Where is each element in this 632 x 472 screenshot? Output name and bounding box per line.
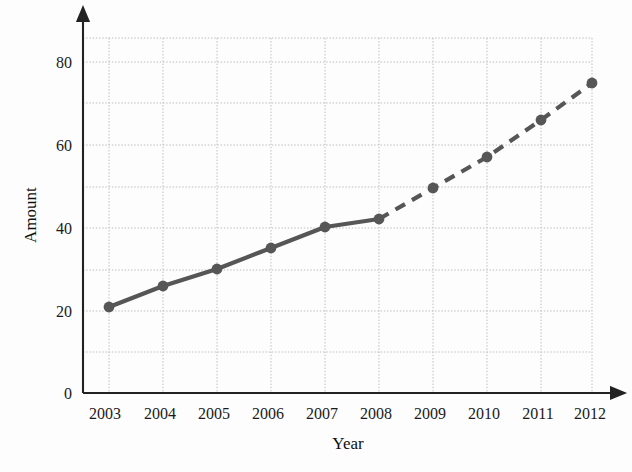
x-axis-title: Year bbox=[332, 434, 364, 453]
data-point-2010[interactable] bbox=[482, 152, 493, 163]
data-point-2005[interactable] bbox=[212, 264, 223, 275]
x-tick-label-2007: 2007 bbox=[306, 405, 338, 422]
x-tick-label-2011: 2011 bbox=[522, 405, 553, 422]
data-point-2007[interactable] bbox=[320, 222, 331, 233]
data-point-2008[interactable] bbox=[374, 214, 385, 225]
x-tick-label-2005: 2005 bbox=[198, 405, 230, 422]
data-point-2006[interactable] bbox=[266, 243, 277, 254]
x-tick-label-2009: 2009 bbox=[414, 405, 446, 422]
data-point-2012[interactable] bbox=[587, 78, 598, 89]
data-point-2004[interactable] bbox=[158, 281, 169, 292]
x-tick-label-2003: 2003 bbox=[89, 405, 121, 422]
x-tick-label-2006: 2006 bbox=[252, 405, 284, 422]
chart-figure: 80 60 40 20 0 2003 2004 2005 2006 2007 2… bbox=[0, 0, 632, 472]
grid-horizontal bbox=[83, 38, 592, 352]
line-chart: 80 60 40 20 0 2003 2004 2005 2006 2007 2… bbox=[0, 0, 632, 472]
data-point-2011[interactable] bbox=[536, 115, 547, 126]
y-tick-label-20: 20 bbox=[56, 303, 72, 320]
data-point-2003[interactable] bbox=[104, 302, 115, 313]
y-tick-label-60: 60 bbox=[56, 137, 72, 154]
x-tick-label-2004: 2004 bbox=[144, 405, 176, 422]
data-line-solid bbox=[109, 219, 379, 307]
data-point-markers bbox=[104, 78, 598, 313]
y-axis-title: Amount bbox=[21, 187, 40, 243]
x-tick-label-2012: 2012 bbox=[574, 405, 606, 422]
grid-vertical bbox=[109, 38, 592, 393]
data-point-2009[interactable] bbox=[428, 183, 439, 194]
x-tick-label-2010: 2010 bbox=[468, 405, 500, 422]
y-tick-label-0: 0 bbox=[64, 385, 72, 402]
y-tick-label-80: 80 bbox=[56, 54, 72, 71]
y-tick-label-40: 40 bbox=[56, 220, 72, 237]
x-tick-label-2008: 2008 bbox=[360, 405, 392, 422]
